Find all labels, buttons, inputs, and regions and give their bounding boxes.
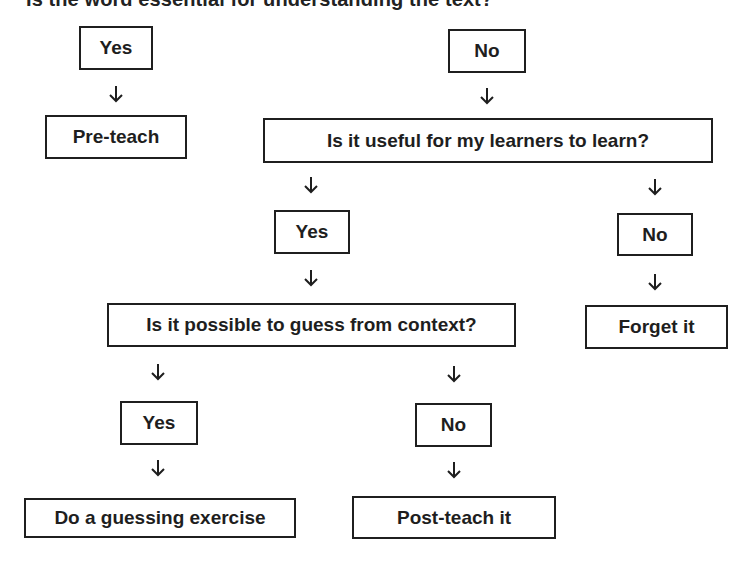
- down-arrow-icon: [301, 175, 321, 195]
- down-arrow-icon: [301, 268, 321, 288]
- flowchart-title: Is the word essential for understanding …: [26, 0, 493, 11]
- node-post-teach: Post-teach it: [352, 496, 556, 539]
- down-arrow-icon: [645, 177, 665, 197]
- node-yes-useful: Yes: [274, 210, 350, 254]
- down-arrow-icon: [477, 86, 497, 106]
- down-arrow-icon: [106, 84, 126, 104]
- down-arrow-icon: [148, 458, 168, 478]
- node-yes-essential: Yes: [79, 26, 153, 70]
- down-arrow-icon: [444, 364, 464, 384]
- node-no-useful: No: [617, 213, 693, 256]
- node-guessing-exercise: Do a guessing exercise: [24, 498, 296, 538]
- node-no-essential: No: [448, 29, 526, 73]
- node-guess-question: Is it possible to guess from context?: [107, 303, 516, 347]
- node-useful-question: Is it useful for my learners to learn?: [263, 118, 713, 163]
- node-pre-teach: Pre-teach: [45, 115, 187, 159]
- node-no-guess: No: [415, 403, 492, 447]
- down-arrow-icon: [444, 460, 464, 480]
- node-yes-guess: Yes: [120, 401, 198, 445]
- node-forget-it: Forget it: [585, 305, 728, 349]
- down-arrow-icon: [645, 272, 665, 292]
- down-arrow-icon: [148, 362, 168, 382]
